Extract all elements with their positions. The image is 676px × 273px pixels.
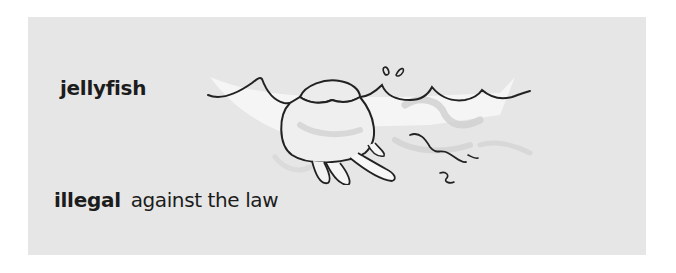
entry-illegal: illegalagainst the law xyxy=(54,188,278,212)
term-illegal: illegal xyxy=(54,188,121,212)
jellyfish-illustration xyxy=(200,45,550,185)
definition-illegal: against the law xyxy=(131,188,278,212)
term-jellyfish: jellyfish xyxy=(60,76,146,100)
jellyfish-icon xyxy=(200,45,550,185)
